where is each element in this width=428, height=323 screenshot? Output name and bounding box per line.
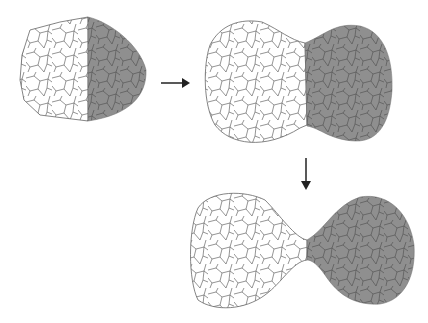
stage-3-gray-particle: [307, 196, 414, 304]
stage-2-white-particle: [205, 21, 307, 142]
stage-2: [205, 21, 392, 142]
stage-1-white-particle: [20, 17, 88, 121]
stage-3-white-particle: [191, 193, 308, 308]
stage-1: [20, 17, 146, 121]
stage-2-gray-particle: [305, 25, 392, 141]
arrow-down-icon: [301, 158, 311, 190]
stage-1-gray-particle: [88, 17, 146, 121]
arrow-right-icon: [161, 78, 190, 88]
sintering-diagram: [0, 0, 428, 323]
stage-3: [191, 193, 415, 308]
